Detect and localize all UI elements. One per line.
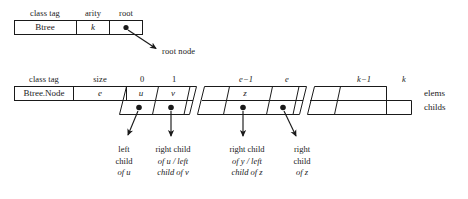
caption-line: child (116, 156, 133, 168)
node-field-size-label: size (93, 74, 107, 84)
node-record-grid (15, 87, 412, 115)
child-pointer-dot-e (280, 105, 286, 111)
caption-left-child-of-u: left child of u (116, 144, 133, 179)
btree-field-class-tag-label: class tag (30, 8, 60, 18)
caption-line: of y / left (229, 156, 264, 168)
caption-right-child-of-u: right child of u / left child of v (155, 144, 190, 179)
btree-field-arity-label: arity (85, 8, 101, 18)
caption-line: child of v (155, 167, 190, 179)
caption-line: of z (294, 167, 311, 179)
caption-line: right (294, 144, 311, 156)
node-value-class-tag: Btree.Node (23, 88, 64, 98)
row-label-elems: elems (424, 88, 445, 98)
elems-value-u: u (139, 88, 144, 98)
row-label-childs: childs (424, 102, 446, 112)
child-pointer-dot-1 (168, 105, 174, 111)
caption-right-child-of-y: right child of y / left child of z (229, 144, 264, 179)
node-value-size: e (98, 88, 102, 98)
root-node-annotation: root node (162, 46, 195, 56)
root-pointer-dot (123, 25, 128, 30)
index-label-1: 1 (172, 74, 176, 84)
caption-right-child-of-z: right child of z (294, 144, 311, 179)
index-label-e: e (285, 74, 289, 84)
caption-line: of u / left (155, 156, 190, 168)
node-field-class-tag-label: class tag (29, 74, 59, 84)
caption-line: child (294, 156, 311, 168)
btree-object-box (15, 21, 143, 35)
caption-line: child of z (229, 167, 264, 179)
caption-line: left (116, 144, 133, 156)
index-label-e-minus-1: e−1 (239, 74, 253, 84)
elems-value-v: v (171, 88, 175, 98)
caption-line: right child (229, 144, 264, 156)
child-pointer-dot-0 (136, 105, 142, 111)
btree-value-class-tag: Btree (35, 22, 55, 32)
diagram-canvas: class tag arity root Btree k root node c… (0, 0, 468, 199)
child-pointer-dot-e-minus-1 (240, 105, 246, 111)
elems-value-z: z (243, 88, 247, 98)
index-label-0: 0 (140, 74, 144, 84)
index-label-k-minus-1: k−1 (357, 74, 371, 84)
caption-line: of u (116, 167, 133, 179)
btree-field-root-label: root (119, 8, 133, 18)
btree-value-arity: k (91, 22, 95, 32)
index-label-k: k (402, 74, 406, 84)
caption-line: right child (155, 144, 190, 156)
